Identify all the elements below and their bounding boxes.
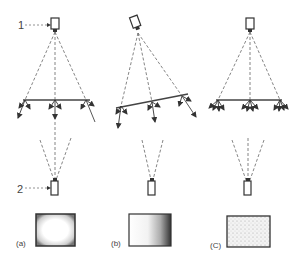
incident-rays (218, 32, 280, 100)
light-source-icon (130, 15, 141, 28)
light-source-nozzle-icon (53, 29, 57, 32)
camera-icon (51, 181, 58, 195)
camera-rays (40, 122, 71, 182)
result-image-b (129, 214, 171, 246)
specular-ray (182, 96, 196, 117)
callout-2-label: 2 (17, 183, 23, 195)
camera-rays (142, 140, 163, 180)
light-source-icon (246, 18, 254, 29)
callout-1-label: 1 (18, 19, 24, 31)
camera-icon (148, 181, 155, 195)
light-source-nozzle-icon (248, 29, 252, 32)
panel-b-label: (b) (111, 239, 121, 248)
incident-rays (25, 32, 86, 100)
light-source-icon (51, 18, 59, 29)
camera-icon (244, 181, 251, 195)
incident-rays (121, 33, 182, 106)
panel-c: (C) (209, 18, 288, 250)
panel-a: 1 2 (16, 18, 95, 248)
result-image-a (36, 214, 75, 246)
camera-rays (232, 138, 264, 180)
reflected-rays (18, 100, 94, 119)
diffuse-rays (209, 100, 288, 111)
panel-a-label: (a) (16, 239, 26, 248)
panel-c-label: (C) (210, 241, 221, 250)
result-image-c (227, 216, 270, 247)
diagram-canvas: 1 2 (0, 0, 301, 259)
light-source-tilted (130, 15, 142, 31)
reflector-surface-tilted (116, 94, 188, 108)
panel-b: (b) (111, 15, 196, 248)
